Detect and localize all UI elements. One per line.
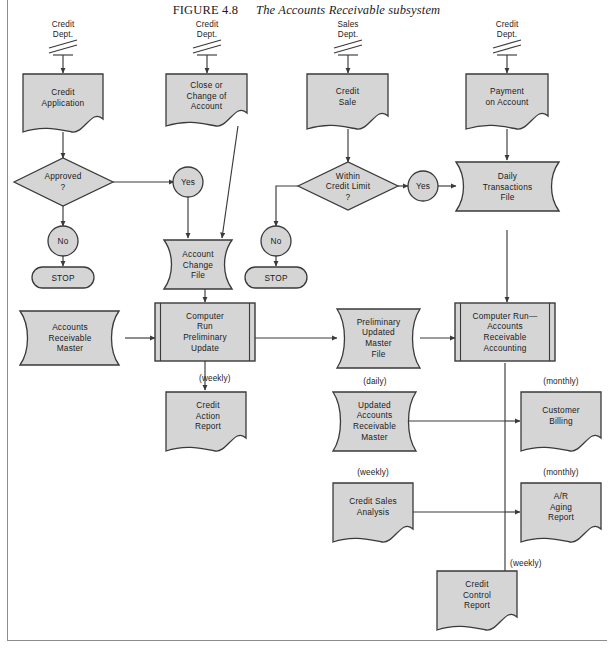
- connector-lines: [63, 55, 520, 578]
- label-stop-1: STOP: [32, 271, 94, 285]
- label-credit-sales-analysis: Credit Sales Analysis: [333, 489, 413, 525]
- label-credit-sale: Credit Sale: [307, 80, 388, 114]
- source-symbol-credit-dept-3: [493, 40, 521, 55]
- label-yes-2: Yes: [408, 179, 438, 193]
- source-symbol-credit-dept-2: [193, 40, 221, 55]
- label-credit-control-report: Credit Control Report: [437, 575, 517, 615]
- label-preliminary-updated-master-file: Preliminary Updated Master File: [338, 312, 419, 364]
- label-account-change-file: Account Change File: [164, 246, 232, 284]
- label-ar-accounting: Computer Run— Accounts Receivable Accoun…: [459, 306, 551, 358]
- source-symbols: [49, 40, 521, 55]
- label-no-1: No: [48, 234, 78, 248]
- label-accounts-receivable-master: Accounts Receivable Master: [25, 319, 115, 357]
- label-within-credit-limit: Within Credit Limit ?: [303, 166, 393, 207]
- label-credit-application: Credit Application: [23, 78, 103, 118]
- link-within-limit-to-no2: [276, 186, 298, 226]
- label-approved-decision: Approved ?: [23, 165, 103, 199]
- source-symbol-credit-dept-1: [49, 40, 77, 55]
- label-no-2: No: [261, 234, 291, 248]
- label-updated-ar-master: Updated Accounts Receivable Master: [334, 395, 415, 447]
- label-credit-action-report: Credit Action Report: [170, 396, 246, 436]
- label-payment-on-account: Payment on Account: [466, 80, 548, 114]
- label-close-change-account: Close or Change of Account: [166, 76, 247, 116]
- figure-frame: FIGURE 4.8The Accounts Receivable subsys…: [0, 0, 613, 666]
- label-preliminary-update: Computer Run Preliminary Update: [161, 306, 249, 358]
- label-daily-transactions-file: Daily Transactions File: [460, 168, 555, 206]
- label-ar-aging-report: A/R Aging Report: [521, 487, 601, 527]
- source-symbol-sales-dept: [334, 40, 362, 55]
- label-yes-1: Yes: [173, 175, 203, 189]
- label-stop-2: STOP: [245, 271, 307, 285]
- link-close-change-to-account-change-file: [222, 126, 238, 238]
- label-customer-billing: Customer Billing: [521, 398, 601, 434]
